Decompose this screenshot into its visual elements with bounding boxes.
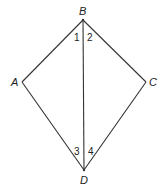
- vertex-label-C: C: [149, 76, 157, 88]
- angle-label-1: 1: [74, 32, 80, 43]
- edges: [22, 20, 146, 170]
- vertex-label-A: A: [10, 76, 18, 88]
- angle-label-4: 4: [88, 146, 94, 157]
- kite-diagram: B A C D 1 2 3 4: [0, 0, 163, 191]
- diagonal-BD: [83, 20, 84, 170]
- angle-label-3: 3: [74, 146, 80, 157]
- vertex-label-B: B: [79, 5, 86, 17]
- angle-label-2: 2: [87, 32, 93, 43]
- edge-BA: [22, 20, 83, 82]
- vertex-label-D: D: [80, 174, 88, 186]
- edge-CB: [83, 20, 146, 82]
